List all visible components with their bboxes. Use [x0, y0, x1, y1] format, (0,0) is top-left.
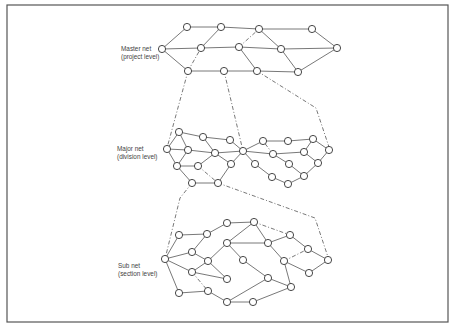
major-net-node [269, 150, 276, 157]
major-net-node [211, 149, 218, 156]
master-net-edge [312, 29, 337, 48]
sub-net-dashed-edge [254, 222, 290, 235]
sub-net-label-line1: Sub net [118, 262, 157, 270]
sub-net-edge [165, 259, 192, 272]
sub-net-node [204, 287, 211, 294]
sub-net-node [287, 283, 294, 290]
sub-net-node [223, 219, 230, 226]
major-net-label-line2: (division level) [117, 153, 158, 161]
master-net-node [235, 43, 242, 50]
sub-net-edge [253, 287, 291, 302]
sub-net-node [175, 289, 182, 296]
major-net-node [259, 137, 266, 144]
sub-net-edge [179, 234, 207, 235]
master-net-edge [298, 48, 337, 72]
sub-net-node [223, 298, 230, 305]
level-connector-line [257, 71, 330, 150]
sub-net-edge [165, 235, 179, 259]
master-net-edge [259, 29, 281, 49]
master-net-edge [239, 47, 257, 71]
sub-net-label: Sub net (section level) [118, 262, 157, 278]
master-net-edge [257, 71, 298, 72]
master-net-edge [281, 48, 337, 49]
sub-net-edge [227, 222, 254, 223]
sub-net-edge [165, 259, 179, 293]
major-net [163, 128, 332, 187]
master-net-node [183, 23, 190, 30]
major-net-node [175, 128, 182, 135]
major-net-node [325, 146, 332, 153]
major-net-edge [203, 137, 230, 140]
sub-net [161, 218, 331, 305]
major-net-node [300, 172, 307, 179]
master-net-node [253, 67, 260, 74]
major-net-label: Major net (division level) [117, 145, 158, 161]
master-net-node [217, 23, 224, 30]
master-net-edge [201, 47, 239, 48]
major-net-node [226, 136, 233, 143]
sub-net-node [223, 275, 230, 282]
master-net-label-line1: Master net [121, 45, 159, 53]
major-net-node [239, 147, 246, 154]
sub-net-node [188, 268, 195, 275]
major-net-node [188, 179, 195, 186]
sub-net-edge [243, 260, 268, 278]
sub-net-edge [179, 291, 208, 293]
sub-net-edge [165, 252, 192, 259]
major-net-node [214, 179, 221, 186]
master-net-edge [221, 27, 259, 29]
sub-net-node [324, 256, 331, 263]
major-net-node [268, 173, 275, 180]
major-net-node [309, 135, 316, 142]
major-net-node [300, 148, 307, 155]
major-net-node [251, 160, 258, 167]
master-net-edge [281, 49, 298, 72]
sub-net-edge [284, 261, 309, 273]
sub-net-edge [227, 222, 254, 243]
master-net-edge [162, 49, 188, 71]
major-net-node [227, 160, 234, 167]
inter-level-connectors [165, 71, 330, 260]
master-net-edge [239, 47, 281, 49]
major-net-node [314, 159, 321, 166]
master-net-node [197, 44, 204, 51]
major-net-node [173, 162, 180, 169]
major-net-label-line1: Major net [117, 145, 158, 153]
sub-net-node [249, 298, 256, 305]
major-net-edge [215, 151, 243, 153]
major-net-node [163, 145, 170, 152]
major-net-node [285, 160, 292, 167]
sub-net-node [203, 230, 210, 237]
master-net-node [184, 67, 191, 74]
network-hierarchy-diagram [0, 0, 450, 329]
master-net-node [308, 25, 315, 32]
master-net-node [255, 25, 262, 32]
master-net-node [220, 67, 227, 74]
master-net-node [333, 44, 340, 51]
sub-net-node [223, 239, 230, 246]
sub-net-label-line2: (section level) [118, 270, 157, 278]
level-connector-line [167, 71, 188, 148]
sub-net-node [175, 231, 182, 238]
master-net [158, 23, 340, 75]
sub-net-node [264, 239, 271, 246]
major-net-node [199, 133, 206, 140]
major-net-node [284, 137, 291, 144]
major-net-node [194, 162, 201, 169]
master-net-node [158, 45, 165, 52]
sub-net-node [250, 218, 257, 225]
sub-net-node [286, 231, 293, 238]
master-net-edge [162, 27, 187, 49]
master-net-label-line2: (project level) [121, 53, 159, 61]
sub-net-node [161, 255, 168, 262]
master-net-label: Master net (project level) [121, 45, 159, 61]
major-net-edge [273, 152, 304, 154]
sub-net-node [239, 256, 246, 263]
sub-net-node [304, 245, 311, 252]
sub-net-node [264, 274, 271, 281]
master-net-edge [162, 48, 201, 49]
master-net-edge [201, 27, 221, 48]
sub-net-edge [192, 272, 227, 279]
major-net-edge [243, 151, 273, 154]
level-connector-line [218, 183, 329, 260]
